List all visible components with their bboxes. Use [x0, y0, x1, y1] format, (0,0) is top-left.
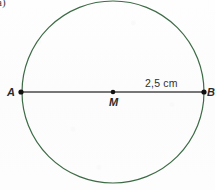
- point-a-dot: [18, 89, 23, 94]
- point-b-dot: [201, 89, 206, 94]
- circle-figure: a) A M B 2,5 cm: [0, 0, 215, 190]
- point-m-dot: [111, 90, 116, 95]
- point-label-a: A: [7, 87, 15, 98]
- radius-measurement-label: 2,5 cm: [145, 77, 178, 89]
- geometry-canvas: [0, 0, 215, 190]
- point-label-b: B: [207, 87, 215, 98]
- point-label-m: M: [109, 97, 118, 108]
